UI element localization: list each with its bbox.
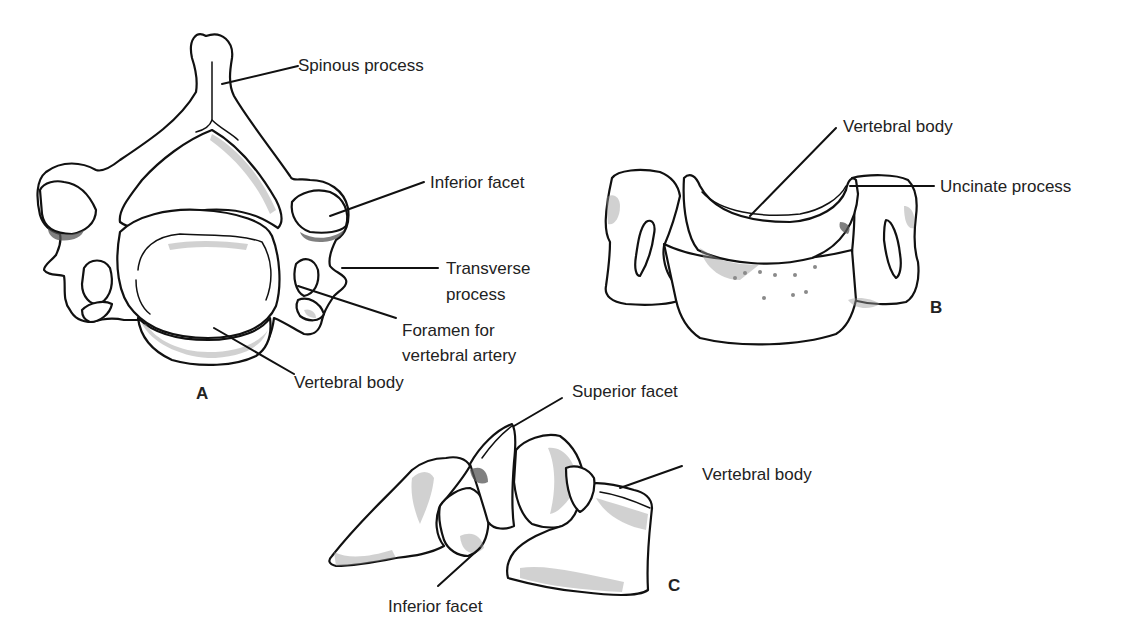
label-foramen-line2: vertebral artery	[402, 345, 516, 366]
label-superior-facet: Superior facet	[572, 381, 678, 402]
label-uncinate-process: Uncinate process	[940, 176, 1071, 197]
label-foramen-line1: Foramen for	[402, 320, 495, 341]
label-vertebral-body-a: Vertebral body	[294, 372, 404, 393]
label-inferior-facet-a: Inferior facet	[430, 172, 525, 193]
label-inferior-facet-c: Inferior facet	[388, 596, 483, 617]
vertebra-illustrations	[0, 0, 1130, 642]
view-a-drawing	[38, 34, 438, 374]
label-vertebral-body-c: Vertebral body	[702, 464, 812, 485]
view-b-drawing	[606, 128, 934, 344]
figure-label-b: B	[930, 298, 942, 318]
figure-label-c: C	[668, 576, 680, 596]
label-transverse-process-line1: Transverse	[446, 258, 530, 279]
view-c-drawing	[329, 398, 682, 595]
label-vertebral-body-b: Vertebral body	[843, 116, 953, 137]
vertebra-diagram: Spinous process Inferior facet Transvers…	[0, 0, 1130, 642]
label-spinous-process: Spinous process	[298, 55, 424, 76]
label-transverse-process-line2: process	[446, 284, 506, 305]
figure-label-a: A	[196, 384, 208, 404]
